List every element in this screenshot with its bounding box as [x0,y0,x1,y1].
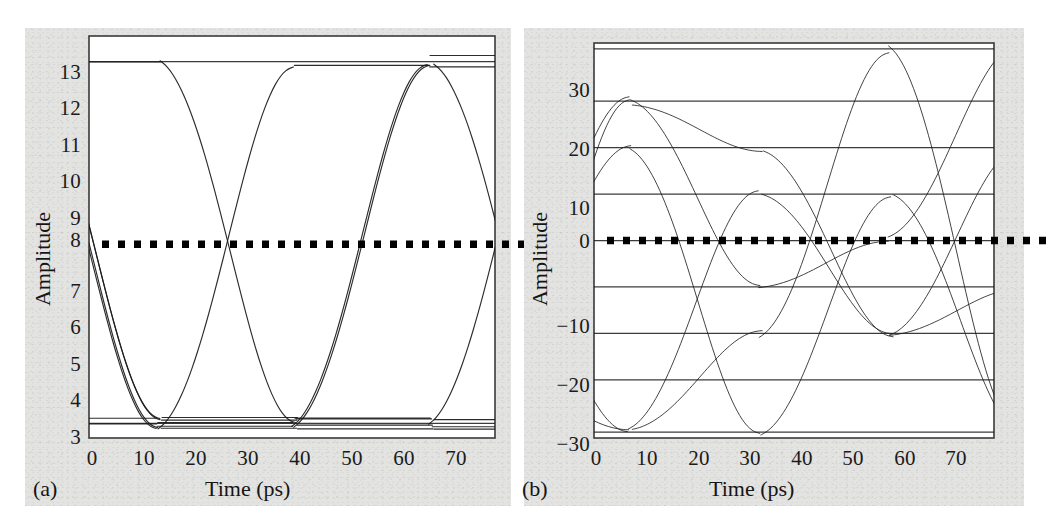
panel-b-xtick-60: 60 [894,446,915,471]
panel-b-tag: (b) [522,476,548,502]
panel-b-ytick-20: 20 [528,137,590,162]
panel-a-ytick-3: 3 [29,425,81,450]
panel-a: 13 12 11 10 9 8 7 6 5 4 3 0 10 20 30 40 … [25,28,511,506]
panel-a-ytick-13: 13 [29,60,81,85]
panel-b-xtick-20: 20 [688,446,709,471]
panel-a-tag: (a) [33,476,57,502]
panel-a-plot [25,28,511,506]
panel-a-xtick-50: 50 [341,446,362,471]
panel-a-ytick-10: 10 [29,169,81,194]
panel-b-xlabel: Time (ps) [709,476,794,502]
eye-diagram-figure: 13 12 11 10 9 8 7 6 5 4 3 0 10 20 30 40 … [0,0,1048,532]
panel-a-ytick-4: 4 [29,388,81,413]
panel-a-xtick-40: 40 [289,446,310,471]
panel-b-ytick-m20: −20 [528,373,590,398]
panel-b-xtick-0: 0 [591,446,602,471]
panel-b-plot [524,28,1024,506]
panel-a-ytick-5: 5 [29,352,81,377]
panel-b-ytick-m30: −30 [528,432,590,457]
panel-b-ytick-30: 30 [528,78,590,103]
panel-a-xlabel: Time (ps) [205,476,290,502]
panel-a-xtick-30: 30 [237,446,258,471]
panel-b-ylabel: Amplitude [527,199,553,319]
panel-a-xtick-20: 20 [185,446,206,471]
panel-a-xtick-70: 70 [445,446,466,471]
panel-a-xtick-60: 60 [393,446,414,471]
panel-b-xtick-40: 40 [791,446,812,471]
panel-a-xtick-10: 10 [133,446,154,471]
panel-a-ylabel: Amplitude [30,199,56,319]
panel-b-xtick-30: 30 [739,446,760,471]
panel-a-xtick-0: 0 [87,446,98,471]
panel-b-xtick-50: 50 [842,446,863,471]
panel-a-ytick-12: 12 [29,96,81,121]
panel-b: 30 20 10 0 −10 −20 −30 0 10 20 30 40 50 … [524,28,1024,506]
panel-b-xtick-10: 10 [636,446,657,471]
panel-a-ytick-11: 11 [29,133,81,158]
panel-b-xtick-70: 70 [945,446,966,471]
